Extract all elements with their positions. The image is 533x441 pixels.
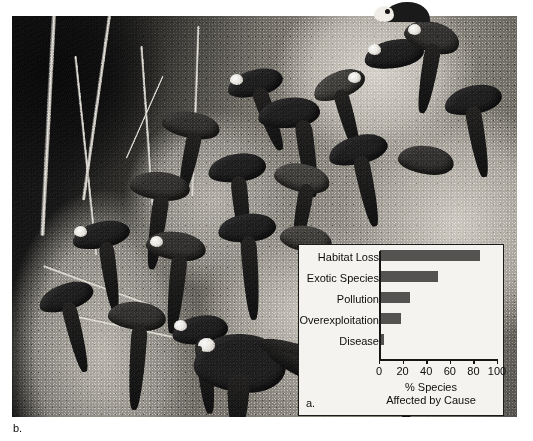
- x-tick-label-60: 60: [444, 365, 456, 377]
- inset-bar-chart: Habitat Loss Exotic Species Pollution Ov…: [298, 244, 504, 416]
- category-label-overexploitation: Overexploitation: [300, 314, 380, 326]
- x-axis-title-line2: Affected by Cause: [361, 394, 501, 407]
- bar-pollution: [380, 292, 410, 303]
- figure-panel-label-a: a.: [306, 397, 315, 409]
- macaw-face-patch: [374, 6, 394, 22]
- x-tick-20: [403, 359, 404, 364]
- x-tick-label-20: 20: [396, 365, 408, 377]
- category-label-habitat-loss: Habitat Loss: [318, 251, 379, 263]
- x-tick-40: [426, 359, 427, 364]
- category-label-pollution: Pollution: [337, 293, 379, 305]
- y-axis-line: [379, 251, 381, 359]
- x-tick-60: [450, 359, 451, 364]
- category-label-disease: Disease: [339, 335, 379, 347]
- x-tick-label-40: 40: [420, 365, 432, 377]
- x-tick-0: [379, 359, 380, 364]
- macaw-eye-icon: [385, 9, 390, 14]
- bar-exotic-species: [380, 271, 438, 282]
- x-tick-100: [497, 359, 498, 364]
- figure-panel-label-b: b.: [13, 422, 22, 434]
- x-axis-line: [379, 359, 497, 361]
- macaw-bird-breakout: [368, 0, 432, 22]
- bar-overexploitation: [380, 313, 401, 324]
- chart-plot-area: Habitat Loss Exotic Species Pollution Ov…: [299, 245, 503, 415]
- x-tick-label-100: 100: [488, 365, 506, 377]
- bar-habitat-loss: [380, 250, 480, 261]
- x-tick-label-80: 80: [467, 365, 479, 377]
- x-tick-80: [473, 359, 474, 364]
- category-label-exotic-species: Exotic Species: [307, 272, 379, 284]
- x-tick-label-0: 0: [376, 365, 382, 377]
- x-axis-title: % Species Affected by Cause: [361, 381, 501, 407]
- x-axis-title-line1: % Species: [361, 381, 501, 394]
